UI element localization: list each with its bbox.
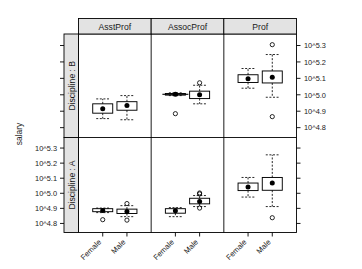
column-strip-label-0: AsstProf [99,22,132,32]
median-dot-6 [100,208,105,213]
median-dot-2 [173,92,178,97]
median-dot-7 [124,209,129,214]
ytick-label-left-2: 10^5.1 [35,174,57,183]
median-dot-5 [270,75,275,80]
y-axis-label: salary [14,122,24,145]
ytick-label-right-4: 10^4.9 [304,107,326,116]
median-dot-3 [197,92,202,97]
ytick-label-left-3: 10^5.0 [35,189,57,198]
row-strip-label-0: Discipline : B [67,61,77,111]
ytick-label-right-1: 10^5.2 [304,58,326,67]
trellis-boxplot-figure: AsstProfAssocProfProfDiscipline : BDisci… [0,0,362,269]
row-strip-label-1: Discipline : A [67,160,77,209]
ytick-label-right-5: 10^4.8 [304,123,326,132]
ytick-label-left-5: 10^4.8 [35,219,57,228]
median-dot-9 [197,199,202,204]
ytick-label-left-0: 10^5.3 [35,144,57,153]
median-dot-11 [270,181,275,186]
median-dot-0 [100,106,105,111]
xtick-label-0-1: Male [109,238,127,256]
xtick-label-0-0: Female [79,238,103,262]
ytick-label-left-4: 10^4.9 [35,204,57,213]
median-dot-1 [124,103,129,108]
panel-frame [79,34,297,233]
xtick-label-2-1: Male [255,238,273,256]
ytick-label-left-1: 10^5.2 [35,159,57,168]
plot-canvas: AsstProfAssocProfProfDiscipline : BDisci… [0,0,362,269]
median-dot-10 [246,184,251,189]
ytick-label-right-2: 10^5.1 [304,74,326,83]
column-strip-label-1: AssocProf [168,22,208,32]
ytick-label-right-0: 10^5.3 [304,41,326,50]
median-dot-4 [246,76,251,81]
xtick-label-1-1: Male [182,238,200,256]
xtick-label-2-0: Female [224,238,248,262]
xtick-label-1-0: Female [152,238,176,262]
ytick-label-right-3: 10^5.0 [304,91,326,100]
median-dot-8 [173,208,178,213]
column-strip-label-2: Prof [252,22,268,32]
